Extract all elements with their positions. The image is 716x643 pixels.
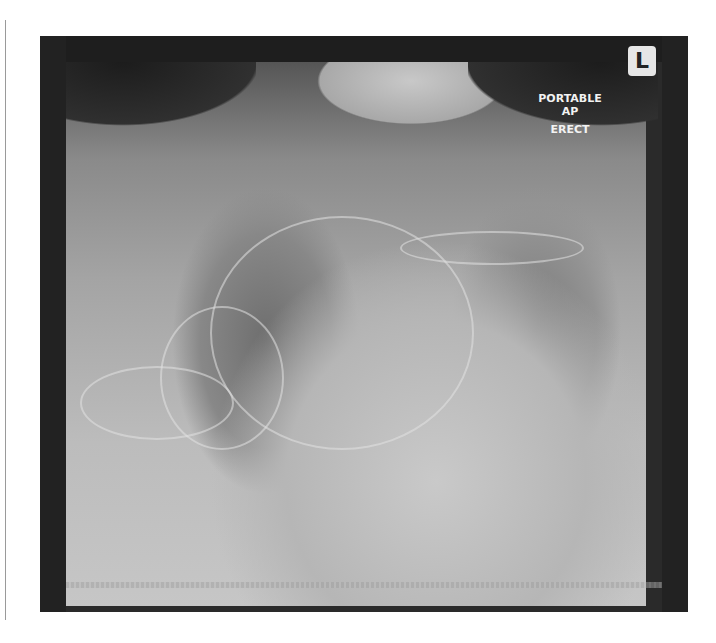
film-right-border	[662, 36, 688, 612]
annotation-ap: AP	[520, 105, 620, 118]
side-marker-l: L	[628, 46, 656, 76]
annotation-portable: PORTABLE	[520, 92, 620, 105]
film-bottom-artifact	[66, 582, 662, 588]
chest-xray-image: L PORTABLE AP ERECT	[40, 36, 688, 612]
projection-annotation: PORTABLE AP ERECT	[520, 92, 620, 136]
film-top-border	[40, 36, 688, 62]
ecg-lead-left	[400, 231, 584, 265]
film-left-border	[40, 36, 66, 612]
page-margin-rule	[5, 20, 6, 620]
right-shoulder-shadow	[66, 61, 256, 161]
annotation-erect: ERECT	[520, 123, 620, 136]
